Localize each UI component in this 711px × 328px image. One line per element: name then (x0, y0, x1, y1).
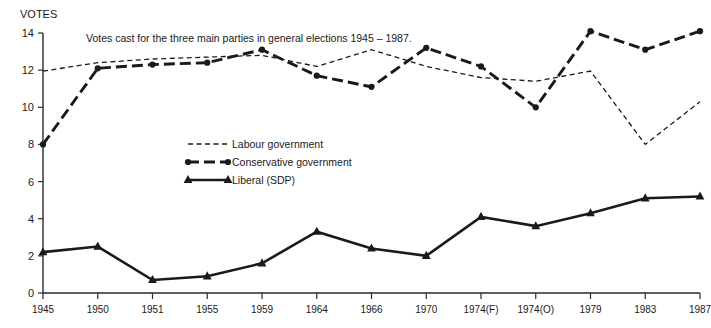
x-axis-tick-labels: 194519501951195519591964196619701974(F)1… (32, 304, 711, 315)
data-point (314, 73, 320, 79)
y-tick-label: 4 (28, 213, 34, 225)
data-point (587, 28, 593, 34)
chart-title: Votes cast for the three main parties in… (86, 32, 412, 44)
x-tick-label: 1974(F) (463, 304, 498, 315)
legend-item-labour: Labour government (188, 138, 323, 150)
legend-item-liberal: Liberal (SDP) (184, 174, 295, 186)
x-tick-label: 1959 (251, 304, 274, 315)
data-point (149, 61, 155, 67)
legend-marker (185, 159, 191, 165)
data-point (533, 104, 539, 110)
chart-container: VOTES 02468101214 1945195019511955195919… (0, 0, 711, 328)
legend-item-conservative: Conservative government (185, 156, 352, 168)
y-tick-label: 14 (22, 27, 34, 39)
data-point (204, 60, 210, 66)
chart-legend: Labour government Conservative governmen… (184, 138, 352, 186)
data-point (642, 47, 648, 53)
x-tick-label: 1974(O) (517, 304, 554, 315)
legend-marker (225, 159, 231, 165)
series-conservative-government (40, 28, 703, 147)
legend-label-conservative: Conservative government (232, 156, 352, 168)
x-tick-label: 1951 (141, 304, 164, 315)
data-point (312, 227, 321, 235)
y-axis-tick-labels: 02468101214 (22, 27, 34, 299)
data-point (40, 141, 46, 147)
y-tick-label: 10 (22, 101, 34, 113)
x-tick-label: 1955 (196, 304, 219, 315)
x-tick-label: 1966 (360, 304, 383, 315)
data-point (368, 84, 374, 90)
legend-label-labour: Labour government (232, 138, 323, 150)
x-tick-label: 1964 (306, 304, 329, 315)
x-tick-label: 1987 (689, 304, 711, 315)
x-tick-label: 1979 (579, 304, 602, 315)
series-liberal-sdp (39, 191, 705, 283)
data-point (477, 212, 486, 220)
x-tick-label: 1983 (634, 304, 657, 315)
data-point (478, 63, 484, 69)
data-point (95, 65, 101, 71)
data-point (697, 28, 703, 34)
y-tick-label: 12 (22, 64, 34, 76)
data-point (259, 47, 265, 53)
votes-line-chart: VOTES 02468101214 1945195019511955195919… (0, 0, 711, 328)
y-tick-label: 2 (28, 250, 34, 262)
x-tick-label: 1945 (32, 304, 55, 315)
x-tick-label: 1950 (87, 304, 110, 315)
x-tick-label: 1970 (415, 304, 438, 315)
legend-label-liberal: Liberal (SDP) (232, 174, 295, 186)
y-axis-title: VOTES (20, 8, 57, 20)
y-tick-label: 0 (28, 287, 34, 299)
axes (38, 33, 700, 299)
axis-lines (43, 33, 700, 293)
data-point (423, 45, 429, 51)
series-line (43, 196, 700, 280)
data-series-group (39, 28, 705, 283)
x-axis-ticks (43, 293, 700, 299)
y-tick-label: 8 (28, 138, 34, 150)
y-tick-label: 6 (28, 176, 34, 188)
